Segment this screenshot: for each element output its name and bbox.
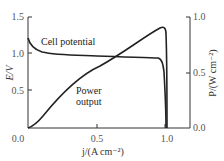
x-tick-0.0: 0.0 — [12, 133, 25, 144]
y-right-tick-1.0: 1.0 — [193, 11, 206, 22]
power-annotation-line1: Power — [76, 85, 102, 96]
x-ticks — [97, 124, 165, 128]
cell-potential-curve — [28, 38, 166, 128]
y-left-tick-1.5: 1.5 — [12, 11, 25, 22]
fuel-cell-chart: 1.5 1.0 0.5 0.0 0.5 1.0 1.0 0.5 0.0 E/V … — [0, 0, 224, 161]
x-axis-label: j/(A cm⁻²) — [81, 146, 124, 158]
left-y-ticks — [28, 17, 32, 90]
y-left-tick-0.5: 0.5 — [12, 85, 25, 96]
right-y-ticks — [186, 17, 190, 73]
y-right-tick-0.0: 0.0 — [193, 122, 206, 133]
power-annotation-line2: output — [76, 96, 102, 107]
y-right-label: P/(W cm⁻²) — [207, 49, 219, 96]
x-tick-0.5: 0.5 — [91, 133, 104, 144]
y-left-tick-1.0: 1.0 — [12, 48, 25, 59]
y-right-tick-0.5: 0.5 — [193, 67, 206, 78]
cell-potential-annotation: Cell potential — [41, 36, 95, 47]
y-left-label: E/V — [4, 64, 15, 82]
x-tick-1.0: 1.0 — [161, 133, 174, 144]
